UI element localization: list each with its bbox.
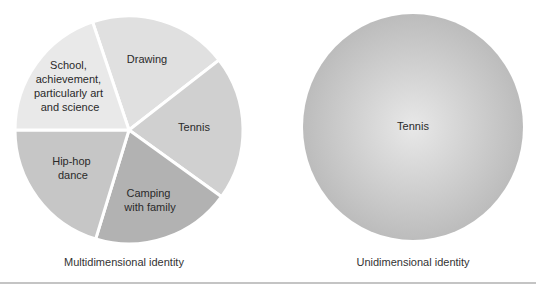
- unidimensional-pie: Tennis Unidimensional identity: [303, 14, 523, 268]
- label-drawing: Drawing: [127, 53, 167, 65]
- identity-diagram: Drawing Tennis Camping with family Hip-h…: [0, 0, 536, 286]
- multidimensional-pie: Drawing Tennis Camping with family Hip-h…: [15, 16, 243, 268]
- label-tennis-full: Tennis: [397, 120, 429, 132]
- caption-multidimensional: Multidimensional identity: [64, 256, 184, 268]
- label-tennis: Tennis: [178, 121, 210, 133]
- caption-unidimensional: Unidimensional identity: [356, 256, 470, 268]
